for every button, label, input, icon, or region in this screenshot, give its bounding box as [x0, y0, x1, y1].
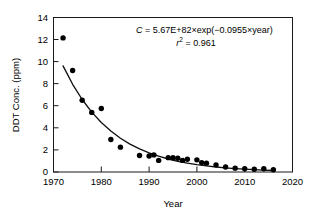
data-point — [199, 160, 204, 165]
data-point — [70, 68, 75, 73]
data-point — [261, 166, 266, 171]
data-point — [185, 157, 190, 162]
y-tick-label-8: 8 — [43, 78, 48, 89]
ddt-concentration-scatter-chart: 0 2 4 6 8 10 12 14 1970 1980 1990 2000 2… — [0, 0, 327, 216]
svg-text:C = 5.67E+82×exp(−0.0955×year): C = 5.67E+82×exp(−0.0955×year) — [136, 25, 273, 35]
data-point — [271, 167, 276, 172]
data-point — [175, 156, 180, 161]
x-tick-label-1990: 1990 — [139, 176, 160, 187]
y-tick-label-10: 10 — [37, 56, 48, 67]
equation-body: = 5.67E+82×exp(−0.0955×year) — [143, 25, 273, 35]
r-squared-annotation: r2 = 0.961 — [176, 36, 215, 47]
data-point — [146, 153, 151, 158]
data-point — [79, 98, 84, 103]
x-tick-label-1980: 1980 — [91, 176, 112, 187]
data-point — [204, 160, 209, 165]
data-point — [166, 155, 171, 160]
data-point — [108, 137, 113, 142]
x-tick-label-2010: 2010 — [234, 176, 255, 187]
data-point — [118, 144, 123, 149]
data-point — [194, 157, 199, 162]
x-tick-label-1970: 1970 — [43, 176, 64, 187]
svg-text:r2 = 0.961: r2 = 0.961 — [176, 36, 215, 47]
chart-figure: 0 2 4 6 8 10 12 14 1970 1980 1990 2000 2… — [0, 0, 327, 216]
data-point — [223, 164, 228, 169]
data-point — [60, 35, 65, 40]
x-tick-label-2020: 2020 — [282, 176, 303, 187]
y-tick-label-12: 12 — [37, 34, 48, 45]
data-point — [99, 106, 104, 111]
data-point — [213, 162, 218, 167]
data-point — [151, 152, 156, 157]
data-point — [156, 158, 161, 163]
x-tick-label-2000: 2000 — [186, 176, 207, 187]
data-point — [242, 166, 247, 171]
fit-equation-annotation: C = 5.67E+82×exp(−0.0955×year) — [136, 25, 273, 35]
data-point — [137, 153, 142, 158]
y-tick-label-4: 4 — [43, 122, 48, 133]
data-point — [232, 165, 237, 170]
data-point — [170, 155, 175, 160]
data-point — [89, 110, 94, 115]
data-point — [180, 158, 185, 163]
y-tick-label-2: 2 — [43, 144, 48, 155]
y-tick-label-14: 14 — [37, 12, 48, 23]
data-point — [252, 167, 257, 172]
r-value: = 0.961 — [183, 38, 216, 48]
y-axis-title: DDT Conc. (ppm) — [10, 58, 21, 132]
x-axis-title: Year — [163, 198, 182, 209]
y-tick-label-6: 6 — [43, 100, 48, 111]
